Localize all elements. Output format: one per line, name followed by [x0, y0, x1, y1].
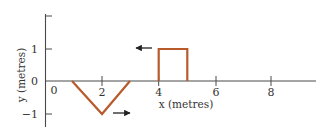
x-origin-label: 0	[51, 84, 58, 97]
x-tick-label: 2	[99, 86, 106, 99]
y-tick-label: 1	[31, 43, 38, 56]
y-tick-label: 0	[31, 75, 38, 88]
y-axis	[46, 14, 53, 127]
x-axis	[46, 76, 317, 86]
x-tick-label: 8	[268, 86, 275, 99]
y-tick-label: −1	[22, 108, 38, 121]
rectangular-pulse	[159, 49, 188, 81]
wave-pulse-diagram: 1 0 −1 0 2 4 6 8 x (metres) y (metres)	[0, 0, 327, 132]
y-axis-title: y (metres)	[15, 48, 27, 103]
x-axis-title: x (metres)	[159, 98, 213, 110]
x-tick-label: 6	[213, 86, 220, 99]
